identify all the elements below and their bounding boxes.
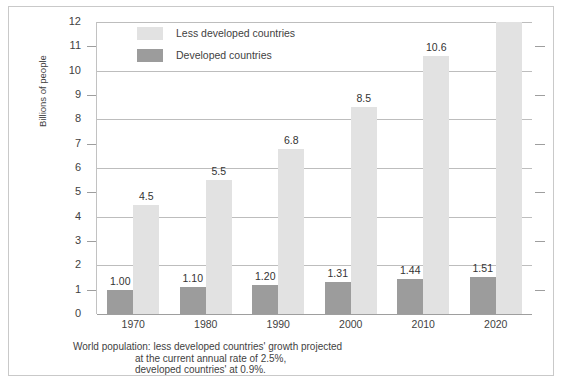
population-bar-chart-figure: Less developed countries Developed count…: [0, 0, 563, 385]
gridline-4: [97, 217, 532, 218]
bar-value-label-less-developed-1970: 4.5: [126, 190, 166, 202]
y-tick-right-5: [535, 192, 545, 193]
y-tick-right-3: [535, 241, 545, 242]
bar-value-label-less-developed-1980: 5.5: [199, 165, 239, 177]
y-tick-label-11: 11: [47, 40, 81, 51]
y-tick-right-11: [535, 46, 545, 47]
x-tick-label-2020: 2020: [461, 318, 531, 330]
bar-developed-1970: [107, 290, 133, 314]
x-tick-label-1980: 1980: [171, 318, 241, 330]
bar-less-developed-2000: [351, 107, 377, 314]
bar-value-label-less-developed-2000: 8.5: [344, 92, 384, 104]
y-tick-label-9: 9: [47, 89, 81, 100]
caption-line-1: World population: less developed countri…: [73, 341, 493, 353]
y-tick-label-1: 1: [47, 284, 81, 295]
y-tick-left-7: [87, 144, 96, 145]
bar-less-developed-1970: [133, 205, 159, 315]
bar-less-developed-2010: [423, 56, 449, 314]
y-tick-label-3: 3: [47, 235, 81, 246]
y-tick-left-9: [87, 95, 96, 96]
y-tick-left-3: [87, 241, 96, 242]
x-tick-label-1990: 1990: [243, 318, 313, 330]
x-tick-label-2010: 2010: [388, 318, 458, 330]
bar-less-developed-2020: [496, 22, 522, 314]
y-tick-left-11: [87, 46, 96, 47]
y-tick-label-4: 4: [47, 211, 81, 222]
bar-developed-2020: [470, 277, 496, 314]
y-tick-label-6: 6: [47, 162, 81, 173]
gridline-10: [97, 71, 532, 72]
x-tick-label-2000: 2000: [316, 318, 386, 330]
y-tick-left-1: [87, 290, 96, 291]
y-tick-label-12: 12: [47, 16, 81, 27]
y-tick-left-5: [87, 192, 96, 193]
bar-developed-2000: [325, 282, 351, 314]
y-tick-right-9: [535, 95, 545, 96]
y-tick-label-5: 5: [47, 186, 81, 197]
bar-value-label-less-developed-1990: 6.8: [271, 134, 311, 146]
bar-value-label-less-developed-2010: 10.6: [416, 41, 456, 53]
y-tick-label-10: 10: [47, 65, 81, 76]
figure-frame: Less developed countries Developed count…: [8, 6, 554, 376]
y-tick-label-8: 8: [47, 113, 81, 124]
bar-less-developed-1990: [278, 149, 304, 314]
chart-caption: World population: less developed countri…: [73, 341, 493, 376]
y-tick-label-2: 2: [47, 259, 81, 270]
y-tick-label-7: 7: [47, 138, 81, 149]
gridline-8: [97, 119, 532, 120]
gridline-12: [97, 22, 532, 23]
plot-area: 01234567891011121.004.519701.105.519801.…: [97, 22, 532, 314]
bar-developed-2010: [397, 279, 423, 314]
bar-developed-1980: [180, 287, 206, 314]
y-tick-right-1: [535, 290, 545, 291]
x-axis-baseline: [97, 314, 532, 315]
caption-line-3: developed countries' at 0.9%.: [73, 364, 493, 376]
y-tick-label-0: 0: [47, 308, 81, 319]
y-tick-right-7: [535, 144, 545, 145]
caption-line-2: at the current annual rate of 2.5%,: [73, 353, 493, 365]
bar-less-developed-1980: [206, 180, 232, 314]
gridline-6: [97, 168, 532, 169]
x-tick-label-1970: 1970: [98, 318, 168, 330]
bar-developed-1990: [252, 285, 278, 314]
